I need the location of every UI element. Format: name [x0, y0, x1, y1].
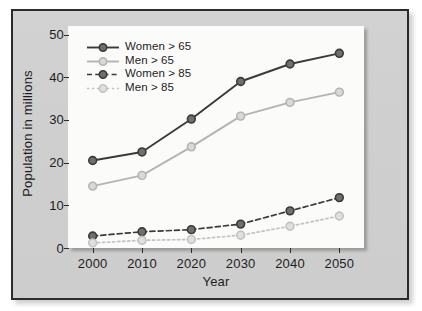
data-point: [138, 228, 146, 236]
data-point: [237, 112, 245, 120]
x-axis-tick-mark: [93, 248, 94, 253]
x-axis-tick-mark: [142, 248, 143, 253]
y-axis-tick-label: 20: [38, 156, 64, 169]
x-axis-tick-mark: [290, 248, 291, 253]
data-point: [89, 239, 97, 247]
x-axis-tick-label: 2050: [324, 257, 354, 270]
legend-item[interactable]: Men > 65: [86, 54, 191, 68]
legend-item-label: Men > 85: [125, 82, 174, 94]
legend-item-label: Women > 65: [125, 41, 191, 53]
data-point: [89, 182, 97, 190]
x-axis-title: Year: [68, 274, 364, 289]
y-axis-title: Population in millions: [20, 44, 35, 224]
legend-item[interactable]: Men > 85: [86, 81, 191, 95]
data-point: [187, 226, 195, 234]
y-axis-tick-mark: [64, 248, 69, 249]
y-axis-tick-mark: [64, 77, 69, 78]
data-point: [335, 194, 343, 202]
figure-container: 01020304050 200020102020203020402050 Wom…: [0, 0, 422, 311]
data-point: [138, 172, 146, 180]
legend-marker-icon: [86, 67, 120, 80]
data-point: [286, 222, 294, 230]
data-point: [335, 49, 343, 57]
legend-marker-icon: [86, 40, 120, 53]
y-axis-tick-mark: [64, 120, 69, 121]
data-point: [335, 212, 343, 220]
data-point: [138, 148, 146, 156]
legend-item-label: Women > 85: [125, 68, 191, 80]
data-point: [187, 236, 195, 244]
y-axis-tick-label: 40: [38, 71, 64, 84]
series-women-85: [89, 194, 343, 240]
series-line: [93, 216, 340, 243]
y-axis-tick-mark: [64, 205, 69, 206]
series-line: [93, 92, 340, 186]
data-point: [187, 115, 195, 123]
x-axis-tick-mark: [241, 248, 242, 253]
series-men-85: [89, 212, 343, 247]
y-axis-tick-label: 10: [38, 199, 64, 212]
y-axis-tick-mark: [64, 163, 69, 164]
x-axis-tick-label: 2010: [127, 257, 157, 270]
x-axis-tick-label: 2000: [78, 257, 108, 270]
y-axis-tick-labels: 01020304050: [36, 26, 64, 248]
data-point: [237, 220, 245, 228]
data-point: [237, 78, 245, 86]
data-point: [286, 207, 294, 215]
y-axis-tick-mark: [64, 35, 69, 36]
chart-legend: Women > 65Men > 65Women > 85Men > 85: [86, 40, 191, 94]
data-point: [237, 231, 245, 239]
y-axis-tick-label: 0: [38, 242, 64, 255]
data-point: [138, 236, 146, 244]
x-axis-tick-label: 2030: [226, 257, 256, 270]
y-axis-tick-label: 50: [38, 28, 64, 41]
x-axis-tick-label: 2040: [275, 257, 305, 270]
data-point: [89, 157, 97, 165]
series-men-65: [89, 88, 343, 190]
y-axis-tick-label: 30: [38, 113, 64, 126]
x-axis-tick-mark: [191, 248, 192, 253]
data-point: [286, 99, 294, 107]
legend-item-label: Men > 65: [125, 55, 174, 67]
x-axis-tick-labels: 200020102020203020402050: [68, 252, 364, 272]
series-line: [93, 198, 340, 236]
data-point: [335, 88, 343, 96]
legend-item[interactable]: Women > 65: [86, 40, 191, 54]
legend-item[interactable]: Women > 85: [86, 67, 191, 81]
data-point: [187, 143, 195, 151]
legend-marker-icon: [86, 54, 120, 67]
x-axis-tick-label: 2020: [176, 257, 206, 270]
data-point: [286, 60, 294, 68]
legend-marker-icon: [86, 81, 120, 94]
x-axis-tick-mark: [339, 248, 340, 253]
